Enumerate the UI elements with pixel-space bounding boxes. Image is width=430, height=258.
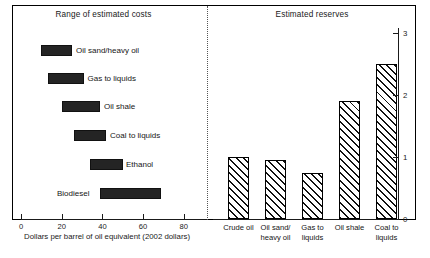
range-bar-coal-to-liquids <box>74 130 107 141</box>
right-y-tick-3 <box>393 33 398 34</box>
reserve-bar-crude-oil <box>228 157 249 219</box>
range-bar-biodiesel <box>100 188 161 199</box>
right-chart-baseline <box>213 219 398 220</box>
right-y-tick-2 <box>393 95 398 96</box>
reserve-bar-xlabel-coal-to-liquids: Coal to liquids <box>364 223 410 242</box>
reserve-bar-xlabel-coal-line1: Coal to <box>364 223 410 233</box>
left-chart-x-axis-label: Dollars per barrel of oil equivalent (20… <box>0 232 214 241</box>
reserve-bar-oil-shale <box>339 101 360 219</box>
left-panel-title: Range of estimated costs <box>0 10 207 19</box>
range-bar-oil-shale <box>62 101 101 112</box>
left-x-tick-20 <box>62 214 63 219</box>
range-bar-ethanol <box>90 159 123 170</box>
left-x-ticklabel-0: 0 <box>19 222 23 231</box>
right-y-ticklabel-1: 1 <box>403 153 407 162</box>
left-x-ticklabel-40: 40 <box>98 222 106 231</box>
left-x-tick-40 <box>102 214 103 219</box>
right-y-tick-1 <box>393 157 398 158</box>
right-y-tick-0 <box>393 219 398 220</box>
range-bar-label-coal-to-liquids: Coal to liquids <box>110 130 160 141</box>
range-bar-label-oil-sand-heavy-oil: Oil sand/heavy oil <box>76 45 139 56</box>
right-y-ticklabel-0: 0 <box>403 215 407 224</box>
panel-divider <box>207 6 208 220</box>
right-y-ticklabel-2: 2 <box>403 91 407 100</box>
range-bar-gas-to-liquids <box>48 73 85 84</box>
reserve-bar-gas-to-liquids <box>302 173 323 220</box>
right-panel-title: Estimated reserves <box>208 10 416 19</box>
range-bar-label-ethanol: Ethanol <box>126 159 153 170</box>
right-chart-y-axis <box>398 28 399 220</box>
range-bar-label-gas-to-liquids: Gas to liquids <box>88 73 136 84</box>
left-chart-x-axis <box>21 219 207 220</box>
range-bar-label-oil-shale: Oil shale <box>104 101 135 112</box>
reserve-bar-xlabel-coal-line2: liquids <box>364 233 410 243</box>
range-bar-oil-sand-heavy-oil <box>41 45 72 56</box>
left-x-ticklabel-80: 80 <box>180 222 188 231</box>
right-y-ticklabel-3: 3 <box>403 29 407 38</box>
left-x-tick-0 <box>21 214 22 219</box>
left-x-ticklabel-20: 20 <box>57 222 65 231</box>
reserve-bar-xlabel-gas-line2: liquids <box>290 233 336 243</box>
range-bar-label-biodiesel: Biodiesel <box>57 188 89 199</box>
left-x-ticklabel-60: 60 <box>139 222 147 231</box>
figure-container: Range of estimated costs Oil sand/heavy … <box>0 0 430 258</box>
left-x-tick-80 <box>184 214 185 219</box>
left-x-tick-60 <box>143 214 144 219</box>
reserve-bar-oil-sand-heavy-oil <box>265 160 286 219</box>
reserve-bar-coal-to-liquids <box>376 64 397 219</box>
